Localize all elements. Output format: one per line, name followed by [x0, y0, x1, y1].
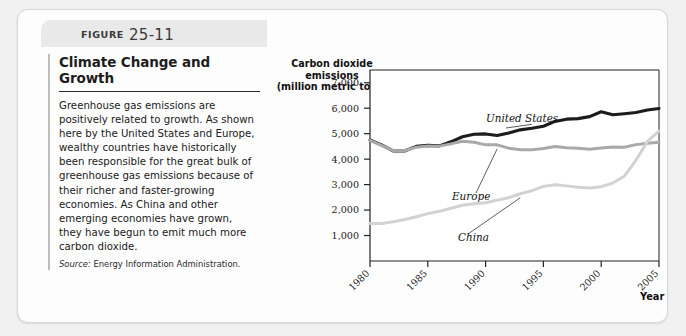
x-tick-label-1985: 1985 — [404, 268, 429, 293]
line-chart: 1,0002,0003,0004,0005,0006,0007,00019801… — [268, 48, 678, 328]
article-column: Climate Change and Growth Greenhouse gas… — [48, 54, 266, 270]
y-tick-label-5000: 5,000 — [332, 128, 359, 139]
series-label-united-states: United States — [486, 112, 558, 124]
source-word: Source: — [59, 259, 91, 269]
x-tick-label-1990: 1990 — [462, 268, 487, 293]
article-body: Greenhouse gas emissions are positively … — [59, 99, 255, 254]
article-source: Source: Energy Information Administratio… — [59, 259, 259, 270]
x-tick-label-1980: 1980 — [346, 268, 371, 293]
x-tick-label-1995: 1995 — [520, 268, 545, 293]
figure-label-word: FIGURE — [81, 29, 124, 40]
figure-panel: FIGURE25-11 Climate Change and Growth Gr… — [17, 9, 668, 323]
y-tick-label-1000: 1,000 — [332, 230, 359, 241]
series-label-china: China — [458, 231, 489, 243]
plot-background — [370, 70, 659, 261]
figure-number: 25-11 — [129, 26, 174, 44]
x-tick-label-2005: 2005 — [635, 268, 660, 293]
y-tick-label-3000: 3,000 — [332, 179, 359, 190]
chart-area: Carbon dioxide emissions (million metric… — [268, 48, 678, 328]
article-title: Climate Change and Growth — [59, 54, 266, 86]
source-text: Energy Information Administration. — [91, 259, 241, 269]
series-label-europe: Europe — [451, 190, 490, 202]
figure-banner: FIGURE25-11 — [41, 20, 267, 47]
figure-banner-text: FIGURE25-11 — [81, 25, 174, 44]
y-tick-label-4000: 4,000 — [332, 154, 359, 165]
x-tick-label-2000: 2000 — [578, 268, 603, 293]
y-tick-label-7000: 7,000 — [332, 77, 359, 88]
title-divider — [59, 91, 260, 92]
y-tick-label-6000: 6,000 — [332, 103, 359, 114]
y-tick-label-2000: 2,000 — [332, 204, 359, 215]
figure-screenshot: FIGURE25-11 Climate Change and Growth Gr… — [0, 0, 686, 336]
